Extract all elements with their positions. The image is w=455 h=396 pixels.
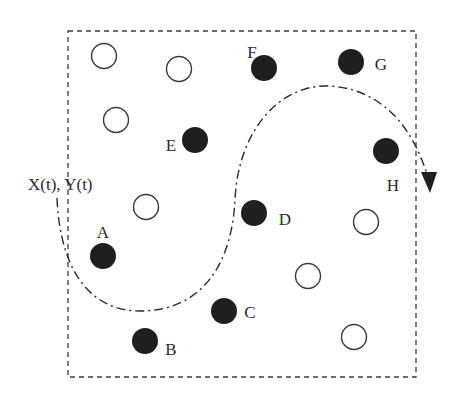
node-label-h: H xyxy=(387,176,399,195)
node-g xyxy=(338,49,364,75)
trajectory-label: X(t), Y(t) xyxy=(28,175,93,194)
node-e xyxy=(182,127,208,153)
node-label-a: A xyxy=(97,223,110,242)
node-label-c: C xyxy=(244,303,255,322)
open-node-5 xyxy=(354,210,379,235)
node-label-b: B xyxy=(165,340,176,359)
open-node-7 xyxy=(342,325,367,350)
diagram-canvas: X(t), Y(t) FGEHDACB xyxy=(0,0,455,396)
open-node-6 xyxy=(296,264,321,289)
node-c xyxy=(211,298,237,324)
node-a xyxy=(90,243,116,269)
node-b xyxy=(132,328,158,354)
node-label-d: D xyxy=(279,210,291,229)
node-label-e: E xyxy=(166,136,176,155)
node-d xyxy=(241,200,267,226)
node-label-f: F xyxy=(247,43,256,62)
open-node-1 xyxy=(92,44,117,69)
node-label-g: G xyxy=(375,55,387,74)
trajectory-arrow-icon xyxy=(421,172,437,193)
open-node-4 xyxy=(134,195,159,220)
open-node-3 xyxy=(104,108,129,133)
open-node-2 xyxy=(167,57,192,82)
node-h xyxy=(373,138,399,164)
sensing-region-boundary xyxy=(68,31,416,377)
